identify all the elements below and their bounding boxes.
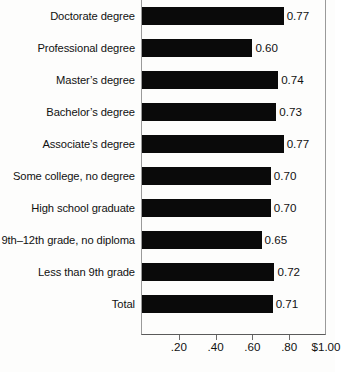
bar-value-label: 0.72: [274, 263, 300, 281]
bar: [142, 135, 284, 153]
bar: [142, 231, 262, 249]
bar-row: Associate’s degree0.77: [0, 128, 335, 160]
category-label: Some college, no degree: [0, 160, 135, 192]
bar-row: Doctorate degree0.77: [0, 0, 335, 32]
bar: [142, 39, 252, 57]
bar-value-label: 0.73: [276, 103, 302, 121]
bar-value-label: 0.70: [271, 199, 297, 217]
bar: [142, 263, 274, 281]
category-label: Total: [0, 288, 135, 320]
bar-track: 0.71: [142, 288, 326, 320]
bar-value-label: 0.77: [284, 7, 310, 25]
bar-track: 0.77: [142, 0, 326, 32]
axis-tick-label: .80: [281, 340, 297, 353]
bar-value-label: 0.74: [278, 71, 304, 89]
bar-track: 0.65: [142, 224, 326, 256]
category-label: Master’s degree: [0, 64, 135, 96]
bar-row: 9th–12th grade, no diploma0.65: [0, 224, 335, 256]
bar: [142, 71, 278, 89]
bar-value-label: 0.65: [262, 231, 288, 249]
bar-row: Total0.71: [0, 288, 335, 320]
category-label: Less than 9th grade: [0, 256, 135, 288]
bar-value-label: 0.71: [273, 295, 299, 313]
bar: [142, 295, 273, 313]
bar: [142, 167, 271, 185]
bar: [142, 103, 276, 121]
bar-track: 0.70: [142, 192, 326, 224]
axis-tick-label: .20: [171, 340, 187, 353]
bar-track: 0.70: [142, 160, 326, 192]
x-axis-tick-labels: .20.40.60.80$1.00: [0, 340, 335, 360]
category-label: 9th–12th grade, no diploma: [0, 224, 135, 256]
bar: [142, 199, 271, 217]
bar-track: 0.73: [142, 96, 326, 128]
bar-row: Professional degree0.60: [0, 32, 335, 64]
axis-tick-label: .60: [244, 340, 260, 353]
bar-row: Less than 9th grade0.72: [0, 256, 335, 288]
bar: [142, 7, 284, 25]
bar-row: High school graduate0.70: [0, 192, 335, 224]
bar-track: 0.74: [142, 64, 326, 96]
category-label: Bachelor’s degree: [0, 96, 135, 128]
bar-value-label: 0.70: [271, 167, 297, 185]
bar-value-label: 0.77: [284, 135, 310, 153]
category-label: Associate’s degree: [0, 128, 135, 160]
bar-track: 0.77: [142, 128, 326, 160]
bar-track: 0.60: [142, 32, 326, 64]
axis-tick-label: .40: [208, 340, 224, 353]
category-label: High school graduate: [0, 192, 135, 224]
bar-value-label: 0.60: [252, 39, 278, 57]
bar-track: 0.72: [142, 256, 326, 288]
axis-tick-label: $1.00: [311, 340, 340, 353]
bar-row: Bachelor’s degree0.73: [0, 96, 335, 128]
category-label: Doctorate degree: [0, 0, 135, 32]
bar-row: Some college, no degree0.70: [0, 160, 335, 192]
bar-row: Master’s degree0.74: [0, 64, 335, 96]
category-label: Professional degree: [0, 32, 135, 64]
